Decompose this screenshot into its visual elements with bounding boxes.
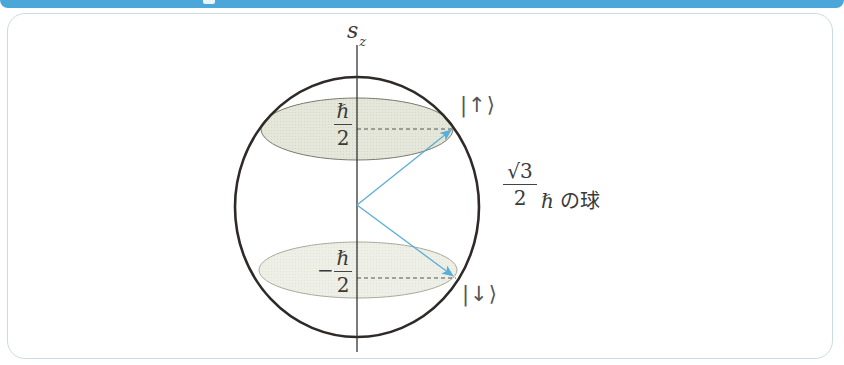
fraction-bar	[503, 184, 537, 185]
axis-label-subscript: z	[359, 34, 366, 49]
lower-plane-sign: −	[317, 258, 334, 282]
upper-denominator: 2	[337, 127, 350, 149]
sphere-radius-label: √3 2	[503, 160, 537, 209]
ket-down-label: |↓⟩	[462, 282, 498, 306]
ket-up-label: |↑⟩	[460, 93, 496, 117]
radius-numerator: √3	[507, 160, 532, 182]
radius-denominator: 2	[514, 187, 527, 209]
fraction-bar	[334, 271, 352, 272]
sphere-label-suffix: ℏ の球	[541, 185, 600, 214]
upper-plane-label: ℏ 2	[334, 100, 352, 149]
upper-numerator: ℏ	[337, 100, 350, 122]
spin-sphere-diagram	[0, 0, 844, 365]
lower-numerator: ℏ	[337, 247, 350, 269]
lower-plane-label: ℏ 2	[334, 247, 352, 296]
sz-axis-label: sz	[347, 18, 365, 43]
lower-denominator: 2	[337, 274, 350, 296]
axis-label-s: s	[347, 18, 358, 43]
fraction-bar	[334, 124, 352, 125]
lower-precession-disc	[259, 242, 457, 298]
